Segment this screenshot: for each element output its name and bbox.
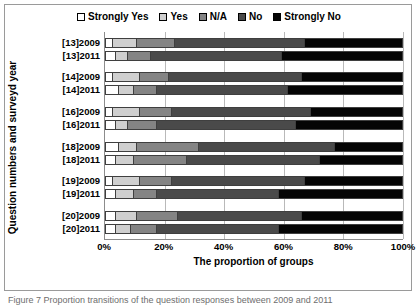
stacked-bar[interactable] [105,85,403,95]
x-axis-tick-label: 100% [391,241,415,252]
legend-item-label: Yes [170,12,187,22]
category-label: [20]2009 [22,211,100,221]
bar-segment [278,225,402,233]
category-label-group: [14]2009[14]2011 [22,67,100,102]
bar-segment [115,225,130,233]
bar-segment [112,177,139,185]
bar-segment [198,143,334,151]
category-label: [18]2011 [22,155,100,165]
bar-segment [106,52,115,60]
legend-item-strongly-no[interactable]: Strongly No [273,12,341,22]
bar-group [105,136,403,171]
x-axis-tick-label: 0% [97,241,111,252]
bar-segment [127,52,151,60]
bar-segment [156,190,277,198]
legend-item-n-a[interactable]: N/A [199,12,227,22]
bar-segment [106,121,115,129]
bar-segment [115,52,127,60]
x-axis-tick-label: 80% [334,241,353,252]
stacked-bar[interactable] [105,142,403,152]
bar-segment [136,212,177,220]
bar-segment [133,156,186,164]
bar-segment [310,108,402,116]
bar-segment [127,121,157,129]
bar-segment [106,86,118,94]
bar-segment [139,108,172,116]
stacked-bar[interactable] [105,155,403,165]
bar-segment [156,225,277,233]
legend-item-no[interactable]: No [238,12,262,22]
bar-group [105,32,403,67]
plot-area [104,32,403,240]
stacked-bar[interactable] [105,51,403,61]
category-label: [14]2011 [22,85,100,95]
category-label: [19]2009 [22,176,100,186]
legend-swatch-icon [77,13,85,21]
stacked-bar[interactable] [105,38,403,48]
legend-swatch-icon [273,13,281,21]
y-axis-title: Question numbers and surveyd year [4,35,22,260]
bar-segment [301,212,402,220]
bar-rows [105,32,403,239]
bar-segment [168,73,301,81]
legend-item-label: N/A [210,12,227,22]
category-label-group: [19]2009[19]2011 [22,171,100,206]
bar-group [105,205,403,240]
category-label: [20]2011 [22,224,100,234]
bar-segment [118,143,136,151]
category-label: [18]2009 [22,142,100,152]
category-label-group: [18]2009[18]2011 [22,136,100,171]
gridline [403,32,404,239]
bar-segment [118,86,133,94]
y-axis-category-labels: [13]2009[13]2011[14]2009[14]2011[16]2009… [22,32,100,240]
stacked-bar[interactable] [105,120,403,130]
stacked-bar[interactable] [105,176,403,186]
bar-segment [281,52,402,60]
bar-segment [301,73,402,81]
legend-item-label: Strongly No [284,12,341,22]
chart-legend: Strongly YesYesN/ANoStrongly No [5,12,413,22]
bar-segment [115,190,133,198]
bar-segment [112,73,139,81]
bar-segment [115,212,136,220]
legend-item-label: No [249,12,262,22]
bar-segment [139,73,169,81]
bar-segment [150,52,280,60]
chart-frame: Strongly YesYesN/ANoStrongly No Question… [4,4,412,291]
bar-segment [304,39,402,47]
bar-segment [156,121,295,129]
legend-item-yes[interactable]: Yes [159,12,187,22]
category-label-group: [13]2009[13]2011 [22,32,100,67]
category-label: [13]2011 [22,51,100,61]
category-label: [13]2009 [22,38,100,48]
bar-segment [334,143,402,151]
bar-segment [136,39,174,47]
x-axis-ticks: 0%20%40%60%80%100% [104,241,403,255]
x-axis-title: The proportion of groups [104,256,403,267]
stacked-bar[interactable] [105,224,403,234]
x-axis-tick-label: 60% [274,241,293,252]
legend-swatch-icon [199,13,207,21]
bar-segment [295,121,402,129]
stacked-bar[interactable] [105,211,403,221]
bar-segment [115,121,127,129]
bar-segment [112,39,136,47]
bar-segment [177,212,301,220]
stacked-bar[interactable] [105,107,403,117]
legend-swatch-icon [238,13,246,21]
bar-segment [130,225,157,233]
bar-segment [139,177,172,185]
bar-segment [171,108,310,116]
bar-segment [133,190,157,198]
stacked-bar[interactable] [105,189,403,199]
category-label-group: [20]2009[20]2011 [22,205,100,240]
category-label: [14]2009 [22,72,100,82]
bar-segment [171,177,304,185]
stacked-bar[interactable] [105,72,403,82]
bar-segment [174,39,304,47]
bar-group [105,101,403,136]
bar-group [105,171,403,206]
bar-segment [287,86,402,94]
legend-item-strongly-yes[interactable]: Strongly Yes [77,12,148,22]
bar-segment [112,108,139,116]
